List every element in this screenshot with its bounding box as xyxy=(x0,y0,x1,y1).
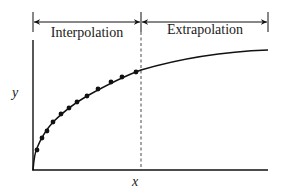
data-points xyxy=(35,70,139,153)
data-point xyxy=(85,94,90,99)
data-point xyxy=(35,148,40,153)
extrapolation-label: Extrapolation xyxy=(167,22,243,37)
data-point xyxy=(96,87,101,92)
data-point xyxy=(109,80,114,85)
data-point xyxy=(51,120,56,125)
data-point xyxy=(45,129,50,134)
data-point xyxy=(67,106,72,111)
data-point xyxy=(134,70,139,75)
interpolation-diagram: Interpolation Extrapolation y x xyxy=(0,0,283,194)
data-point xyxy=(75,100,80,105)
data-point xyxy=(59,112,64,117)
data-point xyxy=(120,75,125,80)
interpolation-label: Interpolation xyxy=(51,25,123,40)
data-point xyxy=(40,136,45,141)
y-axis-label: y xyxy=(10,85,19,100)
x-axis-label: x xyxy=(131,174,139,189)
